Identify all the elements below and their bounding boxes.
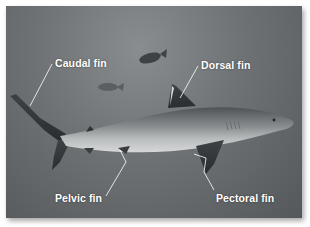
shark-illustration: [6, 6, 302, 218]
pelvic-leader-line: [106, 150, 126, 196]
dorsal-fin-label: Dorsal fin: [201, 59, 250, 71]
shark-body: [10, 84, 294, 174]
pectoral-fin-label: Pectoral fin: [216, 192, 274, 204]
dorsal-leader-line: [180, 66, 198, 98]
caudal-leader-line: [30, 64, 52, 106]
caudal-fin-label: Caudal fin: [55, 57, 107, 69]
background-fish-2: [98, 83, 124, 91]
shark-photo: Caudal fin Dorsal fin Pelvic fin Pectora…: [6, 6, 302, 218]
pelvic-fin-label: Pelvic fin: [55, 192, 102, 204]
background-fish-1: [138, 49, 167, 66]
